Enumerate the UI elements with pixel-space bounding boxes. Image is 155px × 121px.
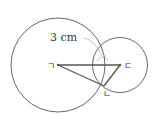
- two-circles-diagram: 3 cm ㄱ ㄷ ㄴ: [0, 0, 155, 121]
- point-label-left: ㄱ: [47, 61, 55, 71]
- point-label-right: ㄷ: [124, 61, 132, 71]
- segment-left-to-bottom: [58, 65, 104, 86]
- angle-arc: [97, 57, 109, 61]
- center-dot-right: [119, 64, 121, 66]
- measure-label: 3 cm: [50, 31, 78, 44]
- center-dot-left: [57, 64, 59, 66]
- segment-right-to-bottom: [104, 65, 120, 86]
- point-label-bottom: ㄴ: [103, 89, 111, 99]
